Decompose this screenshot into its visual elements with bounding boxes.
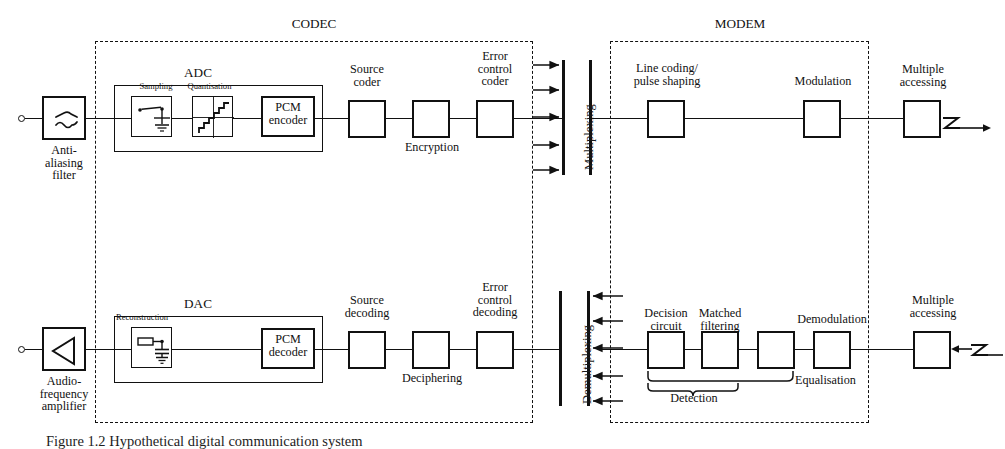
figure-caption: Figure 1.2 Hypothetical digital communic… bbox=[46, 433, 363, 449]
sampling-block[interactable] bbox=[131, 96, 172, 137]
rx-wire-4 bbox=[386, 349, 412, 351]
encryption-block[interactable] bbox=[412, 100, 450, 138]
error-control-decoding-label: Error control decoding bbox=[454, 281, 536, 319]
tx-wire-10 bbox=[841, 118, 903, 120]
multiplexing-label: Multiplexing bbox=[582, 104, 597, 170]
tx-wire-9 bbox=[685, 118, 803, 120]
tx-input-terminal bbox=[18, 115, 25, 122]
tx-antenna-icon bbox=[941, 104, 997, 138]
matched-filtering-label: Matched filtering bbox=[683, 307, 757, 332]
line-coding-label: Line coding/ pulse shaping bbox=[611, 62, 723, 87]
tx-wire-4 bbox=[315, 118, 348, 120]
source-coder-label: Source coder bbox=[331, 63, 403, 88]
rx-wire-6 bbox=[514, 349, 560, 351]
source-decoding-label: Source decoding bbox=[326, 294, 408, 319]
detection-label: Detection bbox=[650, 392, 738, 405]
line-coding-block[interactable] bbox=[647, 100, 685, 138]
rx-wire-3 bbox=[315, 349, 348, 351]
tx-multiple-accessing-block[interactable] bbox=[903, 100, 941, 138]
quantisation-block[interactable] bbox=[192, 96, 233, 137]
equaliser-block[interactable] bbox=[757, 331, 795, 369]
deciphering-block[interactable] bbox=[412, 331, 450, 369]
rx-multiple-accessing-label: Multiple accessing bbox=[896, 294, 970, 319]
rx-wire-11 bbox=[851, 349, 913, 351]
rx-wire-9 bbox=[739, 349, 757, 351]
adc-label: ADC bbox=[168, 66, 228, 80]
error-control-coder-label: Error control coder bbox=[458, 50, 532, 88]
tx-wire-8 bbox=[589, 118, 647, 120]
demodulation-block[interactable] bbox=[813, 331, 851, 369]
deciphering-label: Deciphering bbox=[395, 372, 469, 385]
rx-wire-8 bbox=[685, 349, 701, 351]
anti-aliasing-filter-label: Anti- aliasing filter bbox=[24, 144, 104, 182]
demodulation-label: Demodulation bbox=[785, 313, 879, 326]
modem-label: MODEM bbox=[690, 17, 790, 31]
quantisation-label: Quantisation bbox=[172, 82, 247, 91]
equalisation-label: Equalisation bbox=[795, 374, 887, 387]
amplifier-triangle-icon bbox=[44, 329, 88, 373]
rx-output-terminal bbox=[18, 346, 25, 353]
reconstruction-block[interactable] bbox=[131, 327, 172, 368]
decision-circuit-block[interactable] bbox=[647, 331, 685, 369]
modulation-label: Modulation bbox=[787, 75, 859, 88]
mux-arrows-group bbox=[527, 58, 587, 178]
rx-wire-10 bbox=[795, 349, 813, 351]
tx-wire-2 bbox=[172, 118, 192, 120]
anti-aliasing-filter-block[interactable] bbox=[42, 96, 86, 140]
tx-multiple-accessing-label: Multiple accessing bbox=[886, 63, 960, 88]
rc-lowpass-icon bbox=[132, 328, 173, 369]
tx-wire-6 bbox=[450, 118, 476, 120]
error-control-coder-block[interactable] bbox=[476, 100, 514, 138]
quantisation-staircase-icon bbox=[193, 97, 234, 138]
tx-wire-in bbox=[25, 118, 42, 120]
source-decoding-block[interactable] bbox=[348, 331, 386, 369]
pcm-decoder-label: PCM decoder bbox=[255, 333, 321, 358]
modulation-block[interactable] bbox=[803, 100, 841, 138]
rx-antenna-icon bbox=[949, 334, 1005, 368]
rx-wire-5 bbox=[450, 349, 476, 351]
audio-amplifier-block[interactable] bbox=[42, 327, 86, 371]
sampling-switch-icon bbox=[132, 97, 173, 138]
rx-wire-7 bbox=[600, 349, 647, 351]
audio-amplifier-label: Audio- frequency amplifier bbox=[18, 375, 110, 413]
dac-label: DAC bbox=[168, 297, 228, 311]
rx-wire-out bbox=[25, 349, 42, 351]
encryption-label: Encryption bbox=[396, 141, 468, 154]
demux-bar-left bbox=[559, 291, 562, 406]
pcm-encoder-label: PCM encoder bbox=[255, 101, 321, 126]
rx-multiple-accessing-block[interactable] bbox=[913, 331, 951, 369]
rx-wire-2 bbox=[172, 349, 261, 351]
error-control-decoding-block[interactable] bbox=[476, 331, 514, 369]
mux-bar-left bbox=[562, 60, 565, 175]
lowpass-filter-icon bbox=[44, 98, 88, 142]
codec-label: CODEC bbox=[264, 17, 364, 31]
tx-wire-5 bbox=[386, 118, 412, 120]
reconstruction-label: Reconstruction bbox=[116, 313, 202, 322]
matched-filtering-block[interactable] bbox=[701, 331, 739, 369]
source-coder-block[interactable] bbox=[348, 100, 386, 138]
